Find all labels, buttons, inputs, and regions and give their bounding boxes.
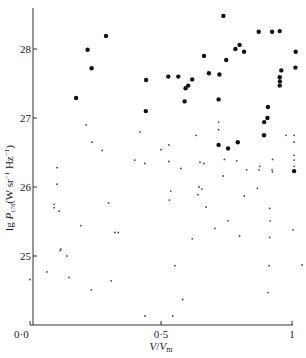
data-point-large: [226, 146, 230, 150]
data-point-small: [68, 277, 70, 279]
data-point-large: [183, 86, 187, 90]
data-point-large: [85, 48, 89, 52]
data-point-small: [198, 186, 200, 188]
data-point-small: [268, 265, 270, 267]
data-point-large: [265, 116, 269, 120]
data-point-small: [90, 289, 92, 291]
data-point-large: [278, 29, 282, 33]
y-tick-label: 25: [20, 250, 32, 262]
data-point-small: [144, 163, 146, 165]
x-axis-title: V/Vm: [150, 340, 174, 354]
data-point-large: [270, 30, 274, 34]
data-point-small: [160, 149, 162, 151]
data-point-small: [169, 199, 171, 201]
data-point-small: [243, 195, 245, 197]
data-point-large: [207, 71, 211, 75]
data-point-small: [218, 121, 220, 123]
data-point-small: [110, 280, 112, 282]
data-point-small: [285, 134, 287, 136]
data-point-small: [301, 264, 303, 266]
x-tick-label: 0·5: [154, 328, 169, 340]
data-point-small: [292, 229, 294, 231]
data-point-large: [242, 50, 246, 54]
data-point-large: [74, 96, 78, 100]
data-point-large: [166, 74, 170, 78]
data-point-small: [195, 134, 197, 136]
data-point-small: [293, 159, 295, 161]
data-point-small: [80, 225, 82, 227]
data-point-large: [233, 47, 237, 51]
data-point-small: [66, 255, 68, 257]
data-point-small: [53, 207, 55, 209]
data-point-small: [134, 159, 136, 161]
y-tick-label: 26: [20, 181, 32, 193]
data-point-large: [104, 34, 108, 38]
data-point-small: [293, 154, 295, 156]
data-point-small: [108, 202, 110, 204]
data-point-large: [279, 68, 283, 72]
data-point-large: [262, 133, 266, 137]
data-point-small: [257, 188, 259, 190]
data-point-large: [262, 120, 266, 124]
data-point-small: [46, 271, 48, 273]
data-point-small: [53, 203, 55, 205]
data-point-small: [85, 124, 87, 126]
data-point-large: [217, 72, 221, 76]
data-point-large: [292, 169, 296, 173]
data-point-small: [191, 238, 193, 240]
data-point-large: [144, 109, 148, 113]
data-point-large: [294, 50, 298, 54]
data-point-small: [172, 315, 174, 317]
data-point-small: [117, 232, 119, 234]
x-tick-label: 1: [289, 328, 295, 340]
data-point-small: [218, 129, 220, 131]
data-point-large: [293, 65, 297, 69]
data-point-small: [168, 144, 170, 146]
data-point-small: [139, 131, 141, 133]
data-point-small: [201, 188, 203, 190]
data-point-small: [272, 159, 274, 161]
data-point-small: [182, 299, 184, 301]
data-point-small: [168, 161, 170, 163]
data-point-large: [216, 143, 220, 147]
data-point-small: [59, 250, 61, 252]
data-point-small: [214, 228, 216, 230]
data-point-small: [293, 165, 295, 167]
data-point-small: [56, 183, 58, 185]
scatter-chart: 25262728 0·00·51 V/Vm lg P178(W sr−1 Hz−…: [0, 0, 306, 358]
data-point-small: [170, 190, 172, 192]
data-point-small: [236, 160, 238, 162]
data-point-large: [257, 30, 261, 34]
data-point-large: [221, 14, 225, 18]
data-point-small: [239, 235, 241, 237]
data-point-small: [271, 169, 273, 171]
data-point-small: [269, 208, 271, 210]
data-point-small: [180, 168, 182, 170]
x-tick-label: 0·0: [14, 328, 29, 340]
data-point-small: [174, 265, 176, 267]
data-point-small: [144, 315, 146, 317]
data-point-small: [29, 279, 31, 281]
data-point-small: [259, 165, 261, 167]
data-point-large: [190, 77, 194, 81]
plot-area: 25262728 0·00·51: [14, 8, 303, 340]
data-point-small: [258, 169, 260, 171]
data-point-small: [272, 171, 274, 173]
data-point-small: [197, 194, 199, 196]
data-point-large: [144, 78, 148, 82]
y-axis-title: lg P178(W sr−1 Hz−1): [3, 145, 16, 231]
data-point-large: [89, 66, 93, 70]
data-point-small: [227, 220, 229, 222]
y-tick-label: 28: [20, 43, 32, 55]
data-points: [29, 14, 303, 317]
data-point-large: [202, 54, 206, 58]
data-point-small: [91, 141, 93, 143]
data-point-large: [278, 83, 282, 87]
y-tick-label: 27: [20, 112, 32, 124]
data-point-large: [224, 58, 228, 62]
y-axis-ticks: 25262728: [20, 43, 37, 262]
data-point-large: [278, 79, 282, 83]
data-point-small: [205, 206, 207, 208]
data-point-small: [269, 220, 271, 222]
data-point-small: [56, 167, 58, 169]
